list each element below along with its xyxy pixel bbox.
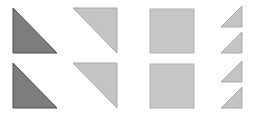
light-square-bottom bbox=[150, 64, 194, 108]
light-square-top bbox=[150, 9, 194, 53]
geometric-shapes-figure bbox=[0, 0, 253, 119]
shape-canvas bbox=[0, 0, 253, 119]
